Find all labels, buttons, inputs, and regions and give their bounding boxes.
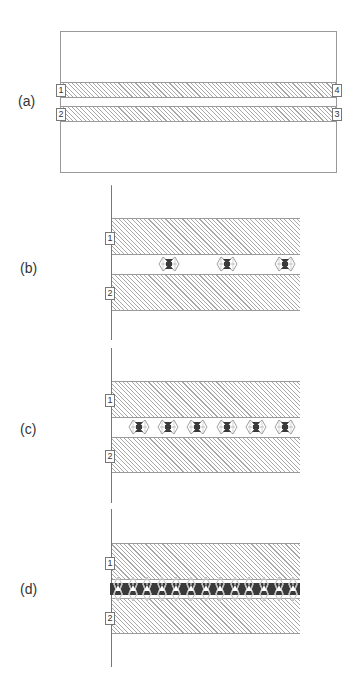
linked-particle-icon <box>156 576 168 602</box>
linked-particle-icon <box>112 576 124 602</box>
block-1 <box>112 381 300 418</box>
linked-particle-icon <box>243 576 255 602</box>
port-tag-1: 1 <box>56 84 66 97</box>
panel-label-d: (d) <box>20 581 37 597</box>
particle-icon <box>216 255 238 273</box>
linked-particle-icon <box>200 576 212 602</box>
particle-icon <box>186 418 208 436</box>
block-2 <box>112 437 300 473</box>
strip-1 <box>61 82 336 98</box>
linked-particle-icon <box>214 576 226 602</box>
particle-icon <box>245 418 267 436</box>
vertical-axis <box>111 186 112 340</box>
linked-particle-icon <box>273 576 285 602</box>
particle-icon <box>157 418 179 436</box>
particle-icon <box>274 418 296 436</box>
panel-label-c: (c) <box>20 421 36 437</box>
linked-particle-icon <box>127 576 139 602</box>
block-tag-2: 2 <box>105 287 115 300</box>
particle-icon <box>216 418 238 436</box>
particle-icon <box>274 255 296 273</box>
particle-icon <box>158 255 180 273</box>
port-tag-2: 2 <box>56 108 66 121</box>
port-tag-3: 3 <box>332 108 342 121</box>
strip-2 <box>61 106 336 122</box>
linked-particle-icon <box>185 576 197 602</box>
block-tag-1: 1 <box>105 394 115 407</box>
block-1 <box>112 218 300 255</box>
block-2 <box>112 274 300 311</box>
block-tag-1: 1 <box>105 232 115 245</box>
vertical-axis <box>111 348 112 503</box>
particle-icon <box>128 418 150 436</box>
linked-particle-icon <box>258 576 270 602</box>
block-tag-1: 1 <box>105 557 115 570</box>
outer-box <box>60 31 337 173</box>
linked-particle-icon <box>287 576 299 602</box>
block-tag-2: 2 <box>105 612 115 625</box>
linked-particle-icon <box>229 576 241 602</box>
linked-particle-icon <box>141 576 153 602</box>
port-tag-4: 4 <box>332 84 342 97</box>
block-tag-2: 2 <box>105 450 115 463</box>
linked-particle-icon <box>170 576 182 602</box>
panel-label-b: (b) <box>20 260 37 276</box>
panel-label-a: (a) <box>18 93 35 109</box>
